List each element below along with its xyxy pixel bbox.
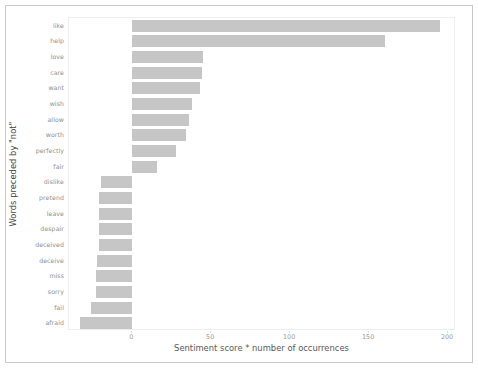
y-tick-label-help: help [50,37,64,44]
y-tick-label-despair: despair [40,225,64,232]
y-tick-label-afraid: afraid [45,319,64,326]
figure-canvas: Words preceded by "not" likehelplovecare… [0,0,479,370]
x-tick-label-50: 50 [206,333,214,341]
x-axis-title: Sentiment score * number of occurrences [68,343,455,353]
bar-love [132,51,203,63]
y-tick-label-leave: leave [47,209,64,216]
bar-want [132,82,200,94]
bar-like [132,20,440,32]
bar-miss [96,270,132,282]
y-tick-label-allow: allow [47,115,64,122]
bar-dislike [101,176,133,188]
x-tick-label-200: 200 [441,333,453,341]
y-tick-label-care: care [50,68,64,75]
y-tick-label-dislike: dislike [44,178,64,185]
y-tick-label-deceive: deceive [39,256,64,263]
bar-pretend [99,192,132,204]
y-tick-label-miss: miss [49,272,64,279]
bar-perfectly [132,145,176,157]
y-tick-label-perfectly: perfectly [36,147,64,154]
bar-sorry [96,286,132,298]
y-tick-label-deceived: deceived [35,240,64,247]
y-tick-label-wish: wish [50,100,64,107]
bar-deceive [97,255,132,267]
bar-series [69,18,454,329]
bar-despair [99,223,132,235]
plot-area [68,17,455,330]
y-axis-tick-labels: likehelplovecarewantwishallowworthperfec… [0,17,64,330]
y-tick-label-love: love [51,53,64,60]
x-tick-label-100: 100 [283,333,295,341]
y-tick-label-worth: worth [46,131,64,138]
bar-help [132,35,385,47]
x-tick-label-0: 0 [129,333,133,341]
bar-leave [99,208,132,220]
y-tick-label-fair: fair [53,162,64,169]
y-tick-label-want: want [48,84,64,91]
bar-fair [132,161,157,173]
y-tick-label-sorry: sorry [48,287,64,294]
bar-wish [132,98,192,110]
bar-fail [91,302,132,314]
bar-worth [132,129,186,141]
bar-afraid [80,317,132,329]
y-tick-label-like: like [53,21,64,28]
y-tick-label-pretend: pretend [39,193,64,200]
bar-care [132,67,202,79]
bar-allow [132,114,189,126]
x-tick-label-150: 150 [362,333,374,341]
y-tick-label-fail: fail [54,303,64,310]
bar-deceived [99,239,132,251]
